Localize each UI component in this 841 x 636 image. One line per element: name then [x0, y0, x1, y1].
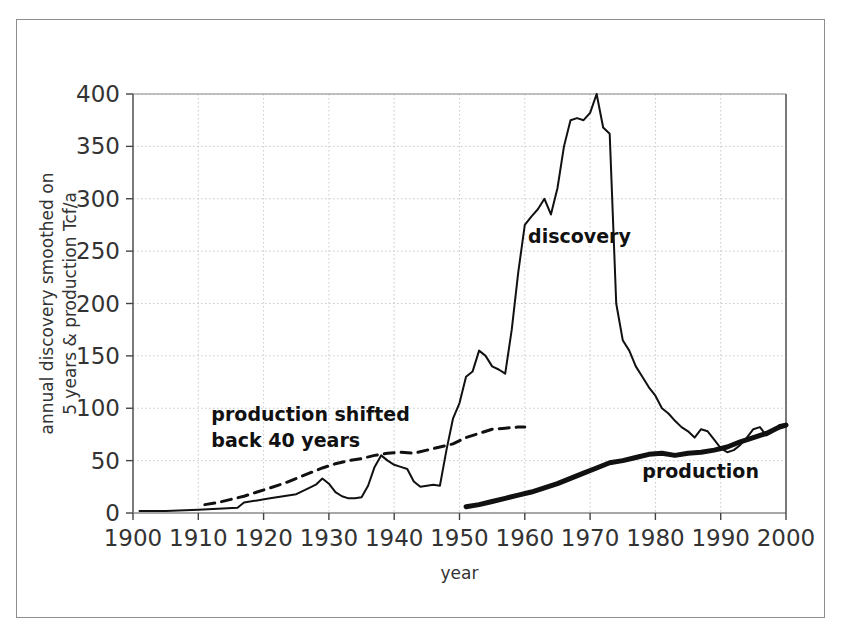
tick-marks-layer [126, 94, 786, 520]
x-tick-label: 1940 [365, 525, 424, 551]
y-tick-label: 200 [76, 291, 120, 317]
y-tick-label: 150 [76, 343, 120, 369]
x-tick-label: 1960 [496, 525, 555, 551]
y-tick-label: 50 [91, 448, 120, 474]
x-tick-label: 1900 [104, 525, 163, 551]
y-tick-label: 300 [76, 186, 120, 212]
y-tick-label: 0 [105, 500, 120, 526]
x-tick-label: 2000 [757, 525, 816, 551]
x-tick-label: 1980 [626, 525, 685, 551]
y-tick-label: 350 [76, 133, 120, 159]
y-axis-title-line2: 5 years & production Tcf/a [60, 192, 80, 415]
x-tick-label: 1970 [561, 525, 620, 551]
x-tick-label: 1930 [300, 525, 359, 551]
x-axis-title: year [441, 563, 479, 583]
x-tick-label: 1910 [169, 525, 228, 551]
x-tick-label: 1920 [234, 525, 293, 551]
y-tick-label: 100 [76, 395, 120, 421]
annotation-production-shifted: production shifted [211, 403, 409, 425]
y-tick-label: 250 [76, 238, 120, 264]
x-tick-label: 1990 [691, 525, 750, 551]
discovery-production-chart: 1900191019201930194019501960197019801990… [0, 0, 841, 636]
annotation-production-shifted-2: back 40 years [211, 429, 360, 451]
annotations-layer: discoveryproductionproduction shiftedbac… [211, 225, 759, 483]
y-axis-title-group: annual discovery smoothed on5 years & pr… [37, 173, 80, 435]
chart-figure: 1900191019201930194019501960197019801990… [0, 0, 841, 636]
y-tick-label: 400 [76, 81, 120, 107]
axis-titles-layer: yearannual discovery smoothed on5 years … [37, 173, 478, 583]
annotation-discovery: discovery [528, 225, 631, 247]
y-axis-title-line1: annual discovery smoothed on [37, 173, 57, 435]
x-tick-label: 1950 [430, 525, 489, 551]
annotation-production: production [642, 460, 759, 482]
